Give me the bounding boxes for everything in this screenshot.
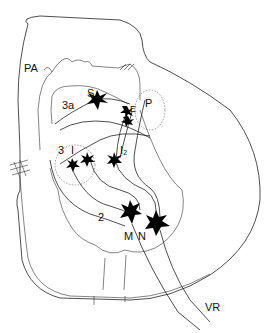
label-2: 2 [98, 212, 104, 223]
label-3: 3 [58, 145, 64, 156]
label-I2: I₂ [120, 145, 127, 156]
label-S: S [87, 88, 94, 99]
label-3a: 3a [62, 100, 74, 111]
label-I: I [71, 145, 74, 156]
neuron-M [120, 200, 142, 224]
label-N: N [138, 231, 146, 242]
neuron-diagram: PA S 3a P E 3 I I₂ 2 M N VR [0, 0, 276, 333]
label-PA: PA [24, 63, 38, 74]
label-E: E [130, 105, 136, 114]
label-M: M [124, 231, 133, 242]
neuron-I [80, 152, 95, 167]
label-P: P [145, 98, 152, 109]
neuron-3 [66, 158, 80, 172]
label-VR: VR [205, 302, 220, 313]
diagram-drawing [0, 0, 276, 333]
neuron-N [145, 210, 170, 236]
